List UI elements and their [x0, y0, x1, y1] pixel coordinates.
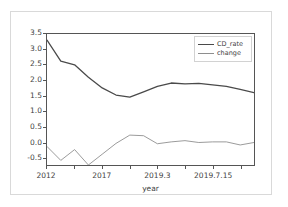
x-tick-mark [102, 166, 103, 169]
y-tick-mark [43, 143, 46, 144]
y-tick-mark [43, 49, 46, 50]
series-line-change [47, 135, 254, 165]
y-tick-label: 2.5 [30, 61, 42, 69]
x-tick-mark [157, 166, 158, 169]
y-tick-mark [43, 80, 46, 81]
x-tick-mark [241, 166, 242, 169]
y-tick-label: 0.5 [30, 123, 42, 131]
y-tick-mark [43, 64, 46, 65]
x-tick-mark [213, 166, 214, 169]
y-tick-mark [43, 33, 46, 34]
y-tick-label: 1.0 [30, 107, 42, 115]
legend-line-icon-change [198, 53, 214, 54]
y-tick-label: 0.0 [30, 139, 42, 147]
x-tick-mark [46, 166, 47, 169]
y-tick-label: 3.0 [30, 45, 42, 53]
x-tick-label: 2019.7.15 [194, 172, 232, 180]
chart-legend: CD_rate change [194, 36, 252, 62]
y-tick-mark [43, 111, 46, 112]
x-tick-label: 2012 [36, 172, 55, 180]
x-tick-mark [74, 166, 75, 169]
y-tick-mark [43, 96, 46, 97]
x-tick-label: 2017 [92, 172, 111, 180]
chart-figure: -0.50.00.51.01.52.02.53.03.5 20122017201… [0, 0, 288, 207]
y-tick-label: 3.5 [30, 29, 42, 37]
y-tick-label: 1.5 [30, 92, 42, 100]
x-tick-label: 2019.3 [144, 172, 170, 180]
y-tick-label: -0.5 [27, 154, 42, 162]
legend-item-change: change [198, 49, 248, 58]
x-tick-mark [130, 166, 131, 169]
legend-line-icon-cd-rate [198, 44, 214, 45]
legend-label-change: change [217, 50, 241, 57]
y-tick-mark [43, 158, 46, 159]
y-tick-label: 2.0 [30, 76, 42, 84]
x-tick-mark [185, 166, 186, 169]
y-tick-mark [43, 127, 46, 128]
legend-label-cd-rate: CD_rate [217, 41, 243, 48]
legend-item-cd-rate: CD_rate [198, 40, 248, 49]
x-axis-label: year [46, 185, 255, 193]
